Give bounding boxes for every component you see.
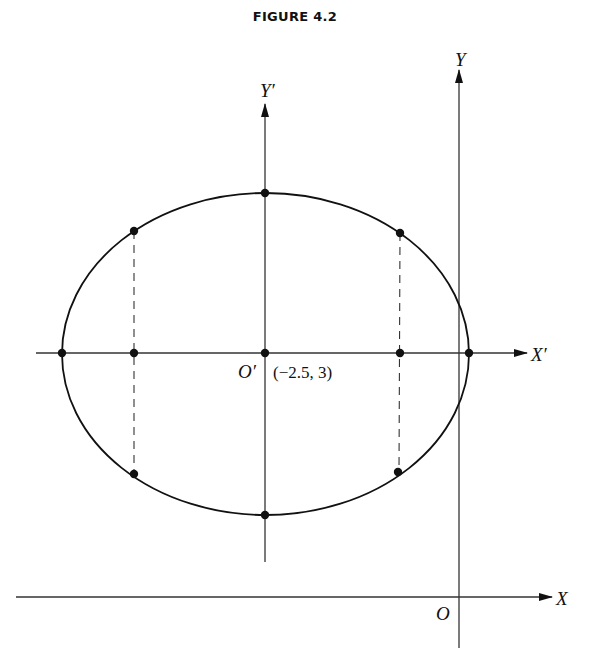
x-axis-label: X	[555, 588, 569, 609]
y-axis-label: Y	[455, 49, 468, 70]
latus-bottom-right	[394, 468, 402, 476]
x-prime-axis-label: X′	[530, 344, 548, 365]
latus-bottom-left	[130, 470, 138, 478]
new-origin-label: O′	[238, 361, 257, 382]
focus-right	[396, 349, 404, 357]
y-prime-axis-label: Y′	[260, 80, 276, 101]
center-point	[261, 349, 269, 357]
origin-label: O	[436, 603, 450, 624]
latus-top-left	[130, 227, 138, 235]
covertex-bottom	[261, 511, 269, 519]
focus-left	[130, 349, 138, 357]
latus-top-right	[396, 229, 404, 237]
vertex-left	[58, 349, 66, 357]
vertex-right	[465, 349, 473, 357]
diagram-canvas: Y Y′ X′ X O O′ (−2.5, 3)	[0, 0, 590, 663]
covertex-top	[261, 189, 269, 197]
new-origin-coords: (−2.5, 3)	[273, 363, 332, 382]
